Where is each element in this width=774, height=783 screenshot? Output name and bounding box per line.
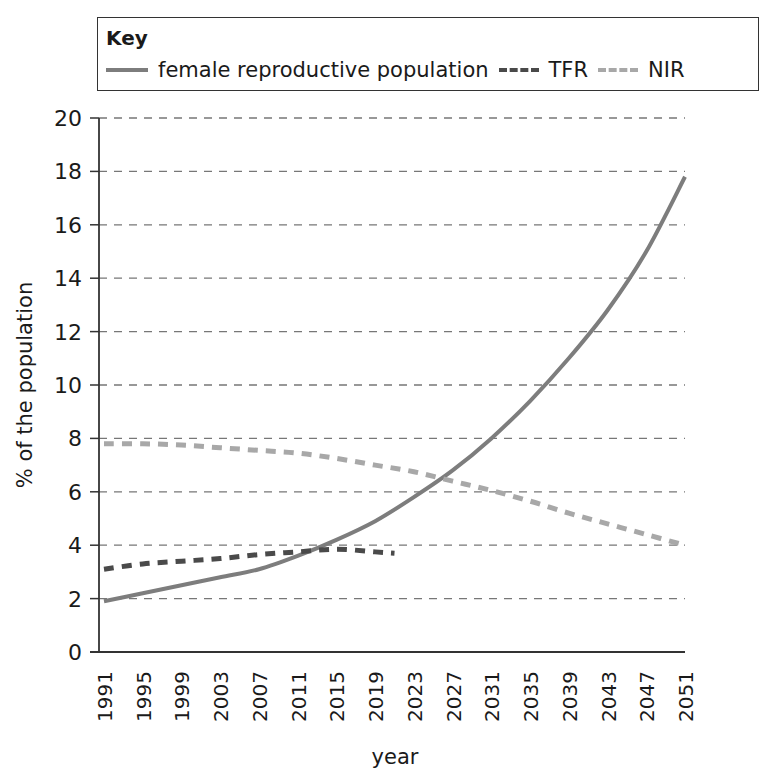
x-tick-label: 2031	[480, 671, 504, 722]
legend: Key female reproductive population TFR N…	[97, 17, 759, 91]
dark-dashed-swatch-icon	[499, 68, 539, 72]
y-tick-label: 14	[36, 266, 82, 291]
legend-item-tfr: TFR	[489, 58, 589, 82]
y-axis-label: % of the population	[13, 282, 37, 488]
y-tick-label: 6	[36, 479, 82, 504]
y-tick-label: 0	[36, 640, 82, 665]
x-tick-label: 1999	[170, 671, 194, 722]
x-tick-label: 2007	[248, 671, 272, 722]
y-tick-label: 10	[36, 373, 82, 398]
line-chart	[0, 0, 774, 783]
y-tick-label: 8	[36, 426, 82, 451]
legend-item-female: female reproductive population	[106, 58, 489, 82]
x-tick-label: 2027	[442, 671, 466, 722]
series-line-1	[104, 549, 395, 569]
x-tick-label: 2011	[287, 671, 311, 722]
x-tick-label: 1991	[93, 671, 117, 722]
x-tick-label: 2051	[674, 671, 698, 722]
y-tick-label: 2	[36, 586, 82, 611]
y-tick-label: 18	[36, 159, 82, 184]
gridlines	[99, 118, 685, 599]
x-tick-label: 2047	[635, 671, 659, 722]
series-line-2	[104, 444, 685, 546]
legend-title: Key	[106, 26, 148, 50]
y-tick-label: 12	[36, 319, 82, 344]
solid-line-swatch-icon	[106, 68, 148, 72]
x-tick-label: 2003	[209, 671, 233, 722]
x-tick-label: 1995	[132, 671, 156, 722]
x-tick-label: 2043	[597, 671, 621, 722]
y-tick-label: 16	[36, 212, 82, 237]
x-tick-label: 2019	[364, 671, 388, 722]
x-tick-label: 2039	[558, 671, 582, 722]
x-axis-label: year	[372, 745, 419, 769]
light-dashed-swatch-icon	[598, 68, 638, 72]
x-tick-label: 2015	[325, 671, 349, 722]
legend-label-female: female reproductive population	[158, 58, 489, 82]
data-lines	[104, 177, 685, 602]
y-tick-label: 4	[36, 533, 82, 558]
legend-item-nir: NIR	[588, 58, 685, 82]
y-tick-label: 20	[36, 106, 82, 131]
legend-label-tfr: TFR	[549, 58, 589, 82]
x-tick-label: 2035	[519, 671, 543, 722]
legend-items: female reproductive population TFR NIR	[106, 58, 685, 82]
legend-label-nir: NIR	[648, 58, 685, 82]
series-line-0	[104, 177, 685, 602]
x-tick-label: 2023	[403, 671, 427, 722]
